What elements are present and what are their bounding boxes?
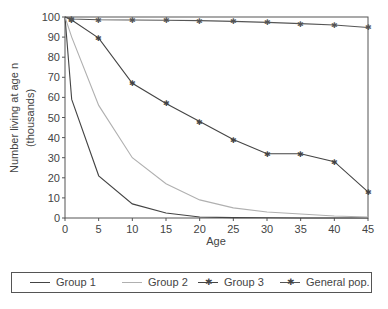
star-marker-icon: ✱ bbox=[297, 20, 304, 29]
x-tick-label: 40 bbox=[328, 223, 340, 235]
legend-item-general-pop: ✱ General pop. bbox=[280, 276, 370, 288]
legend-item-group3: ✱ Group 3 bbox=[198, 276, 264, 288]
star-marker-icon: ✱ bbox=[196, 17, 203, 26]
legend-line-icon bbox=[122, 282, 142, 283]
x-tick-label: 30 bbox=[261, 223, 273, 235]
y-axis-label-line1: Number living at age n bbox=[8, 63, 20, 173]
x-tick-label: 35 bbox=[295, 223, 307, 235]
y-axis-label: Number living at age n (thousands) bbox=[8, 63, 36, 173]
legend-label: Group 3 bbox=[224, 276, 264, 288]
x-tick-label: 20 bbox=[194, 223, 206, 235]
legend-item-group1: Group 1 bbox=[30, 276, 96, 288]
star-marker-icon: ✱ bbox=[331, 158, 338, 167]
y-tick-label: 90 bbox=[48, 31, 60, 43]
star-marker-icon: ✱ bbox=[196, 118, 203, 127]
star-marker-icon: ✱ bbox=[297, 150, 304, 159]
star-marker-icon: ✱ bbox=[264, 18, 271, 27]
chart: 0102030405060708090100051015202530354045… bbox=[0, 0, 388, 270]
series-line-general-pop- bbox=[65, 17, 368, 28]
x-tick-label: 5 bbox=[96, 223, 102, 235]
star-marker-icon: ✱ bbox=[163, 99, 170, 108]
x-axis-label: Age bbox=[206, 235, 226, 247]
star-marker-icon: ✱ bbox=[230, 136, 237, 145]
star-marker-icon: ✱ bbox=[95, 34, 102, 43]
series-line-group-2 bbox=[65, 17, 368, 217]
star-marker-icon: ✱ bbox=[95, 16, 102, 25]
y-tick-label: 40 bbox=[48, 132, 60, 144]
legend-star-line-icon: ✱ bbox=[198, 282, 218, 283]
star-marker-icon: ✱ bbox=[68, 15, 75, 24]
star-marker-icon: ✱ bbox=[129, 79, 136, 88]
legend-label: General pop. bbox=[306, 276, 370, 288]
x-tick-label: 10 bbox=[126, 223, 138, 235]
legend-label: Group 2 bbox=[148, 276, 188, 288]
series-line-group-1 bbox=[65, 17, 368, 218]
x-tick-label: 15 bbox=[160, 223, 172, 235]
x-tick-label: 45 bbox=[362, 223, 374, 235]
y-tick-label: 30 bbox=[48, 152, 60, 164]
plot-frame bbox=[65, 17, 368, 218]
y-tick-label: 100 bbox=[42, 11, 60, 23]
star-marker-icon: ✱ bbox=[163, 16, 170, 25]
y-tick-label: 60 bbox=[48, 91, 60, 103]
series-line-group-3 bbox=[65, 17, 368, 192]
star-marker-icon: ✱ bbox=[365, 188, 372, 197]
y-tick-label: 70 bbox=[48, 71, 60, 83]
y-axis-label-line2: (thousands) bbox=[24, 89, 36, 147]
y-tick-label: 0 bbox=[54, 212, 60, 224]
star-marker-icon: ✱ bbox=[129, 16, 136, 25]
legend-label: Group 1 bbox=[56, 276, 96, 288]
x-tick-label: 25 bbox=[227, 223, 239, 235]
star-marker-icon: ✱ bbox=[230, 17, 237, 26]
star-marker-icon: ✱ bbox=[365, 23, 372, 32]
series-group: ✱✱✱✱✱✱✱✱✱✱✱✱✱✱✱✱✱✱✱✱ bbox=[65, 15, 372, 218]
y-tick-label: 50 bbox=[48, 112, 60, 124]
star-marker-icon: ✱ bbox=[331, 21, 338, 30]
legend-star-line-icon: ✱ bbox=[280, 282, 300, 283]
x-tick-label: 0 bbox=[62, 223, 68, 235]
y-tick-label: 80 bbox=[48, 51, 60, 63]
legend-line-icon bbox=[30, 282, 50, 283]
y-tick-label: 10 bbox=[48, 192, 60, 204]
legend: Group 1 Group 2 ✱ Group 3 ✱ General pop. bbox=[11, 272, 372, 293]
legend-item-group2: Group 2 bbox=[122, 276, 188, 288]
y-tick-label: 20 bbox=[48, 172, 60, 184]
star-marker-icon: ✱ bbox=[264, 150, 271, 159]
